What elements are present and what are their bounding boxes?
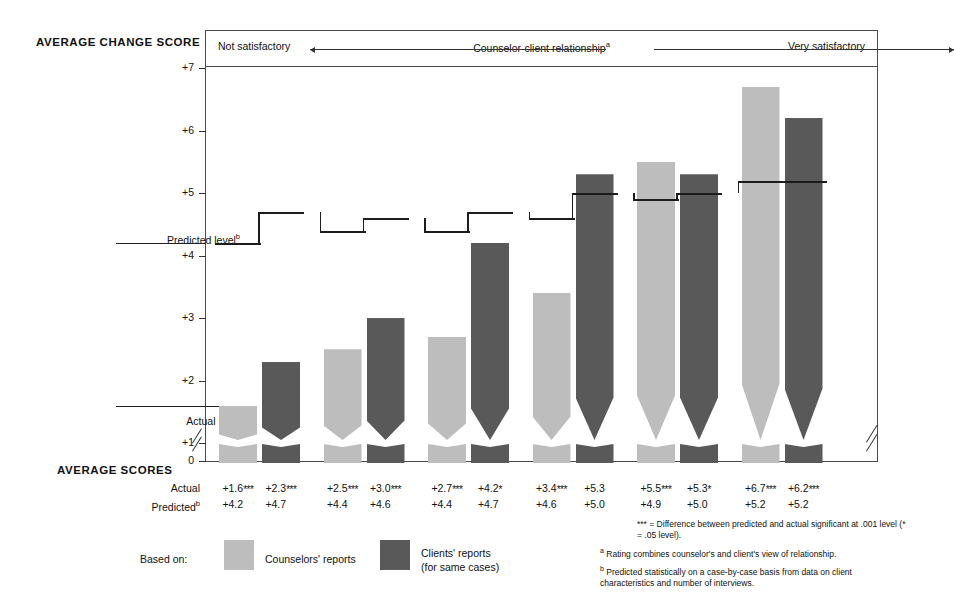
bar-upper-segment xyxy=(324,349,362,440)
bar xyxy=(324,349,362,461)
bar-lower-segment xyxy=(324,444,362,463)
cell-actual: +2.3*** xyxy=(256,481,306,497)
data-row-labels: Actual Predictedb xyxy=(96,481,200,515)
legend-label-counselors: Counselors' reports xyxy=(265,553,356,565)
significance-marker: *** xyxy=(286,484,296,495)
significance-marker: *** xyxy=(809,484,819,495)
page-title: AVERAGE CHANGE SCORE xyxy=(36,36,200,48)
bar-lower-segment xyxy=(428,444,466,463)
cell-actual: +6.2*** xyxy=(779,481,829,497)
bar xyxy=(785,118,823,461)
bar-lower-segment xyxy=(680,444,718,463)
footnote-a: a Rating combines counselor's and client… xyxy=(600,545,900,560)
legend-label-clients: Clients' reports (for same cases) xyxy=(421,546,499,574)
bar xyxy=(576,174,614,461)
legend-title: Based on: xyxy=(140,553,187,565)
y-axis-tick-label: +1 xyxy=(160,436,194,448)
significance-marker: *** xyxy=(661,484,671,495)
bar-upper-segment xyxy=(471,243,509,440)
bar xyxy=(367,318,405,461)
y-axis-tick-label: +3 xyxy=(160,311,194,323)
bar-upper-segment xyxy=(680,174,718,440)
significance-marker: *** xyxy=(243,484,253,495)
legend-swatch-counselors xyxy=(224,540,254,570)
data-cell: +5.3+5.0 xyxy=(570,481,620,513)
data-value-table: +1.6***+4.2***+2.3***+4.7***+2.5***+4.4*… xyxy=(205,481,877,515)
bar-upper-segment xyxy=(262,362,300,440)
cell-predicted: +4.7*** xyxy=(256,497,306,513)
bar-upper-segment xyxy=(219,406,257,441)
y-axis-tick-label: +5 xyxy=(160,186,194,198)
cell-predicted: +4.7* xyxy=(465,497,515,513)
data-cell: +3.0***+4.6*** xyxy=(361,481,411,513)
bar xyxy=(742,87,780,461)
bar xyxy=(471,243,509,461)
data-cell: +6.2***+5.2*** xyxy=(779,481,829,513)
row-label-predicted: Predictedb xyxy=(96,496,200,515)
cell-predicted: +5.2*** xyxy=(779,497,829,513)
bar-upper-segment xyxy=(533,293,571,440)
y-axis-tick-label: +6 xyxy=(160,124,194,136)
average-scores-label: AVERAGE SCORES xyxy=(57,464,172,476)
bar-upper-segment xyxy=(742,87,780,440)
cell-predicted: +5.0 xyxy=(570,497,620,513)
bar-lower-segment xyxy=(576,444,614,463)
data-cell: +5.3*+5.0* xyxy=(674,481,724,513)
cell-predicted: +4.6*** xyxy=(361,497,411,513)
footnote-b: b Predicted statistically on a case-by-c… xyxy=(600,563,900,589)
cell-actual: +5.3 xyxy=(570,481,620,497)
legend-swatch-clients xyxy=(380,540,410,570)
bars-layer xyxy=(205,31,877,461)
predicted-level-leader-line xyxy=(116,243,205,244)
y-axis-tick-label: +2 xyxy=(160,374,194,386)
cell-actual: +3.0*** xyxy=(361,481,411,497)
data-cell: +2.3***+4.7*** xyxy=(256,481,306,513)
bar-upper-segment xyxy=(428,337,466,440)
bar-lower-segment xyxy=(637,444,675,463)
bar-upper-segment xyxy=(367,318,405,440)
cell-actual: +4.2* xyxy=(465,481,515,497)
bar-lower-segment xyxy=(533,444,571,463)
significance-marker: *** xyxy=(557,484,567,495)
significance-marker: *** xyxy=(348,484,358,495)
bar-upper-segment xyxy=(785,118,823,440)
bar xyxy=(428,337,466,461)
significance-marker: *** xyxy=(452,484,462,495)
data-cell: +4.2*+4.7* xyxy=(465,481,515,513)
bar-lower-segment xyxy=(785,444,823,463)
bar-lower-segment xyxy=(471,444,509,463)
bar-upper-segment xyxy=(576,174,614,440)
bar-lower-segment xyxy=(219,444,257,463)
bar-lower-segment xyxy=(262,444,300,463)
significance-marker: * xyxy=(499,484,503,495)
cell-predicted: +5.0* xyxy=(674,497,724,513)
bar xyxy=(219,406,257,462)
cell-actual: +5.3* xyxy=(674,481,724,497)
bar-lower-segment xyxy=(742,444,780,463)
bar xyxy=(637,162,675,461)
significance-marker: *** xyxy=(391,484,401,495)
y-axis-tick-label: 0 xyxy=(160,454,194,466)
significance-marker: *** xyxy=(766,484,776,495)
footnote-significance: *** = Difference between predicted and a… xyxy=(637,519,907,541)
significance-marker: * xyxy=(708,484,712,495)
y-axis-tick-label: +4 xyxy=(160,249,194,261)
y-axis-tick-label: +7 xyxy=(160,61,194,73)
bar-upper-segment xyxy=(637,162,675,440)
row-label-actual: Actual xyxy=(96,481,200,496)
bar xyxy=(680,174,718,461)
bar xyxy=(262,362,300,461)
x-axis-break-icon xyxy=(866,442,892,466)
bar-lower-segment xyxy=(367,444,405,463)
bar xyxy=(533,293,571,461)
